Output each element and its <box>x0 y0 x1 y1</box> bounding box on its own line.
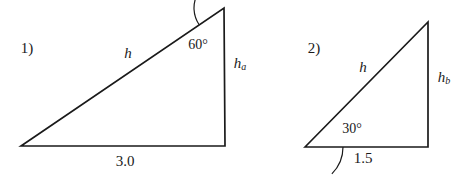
problem-2-vertical-side-label: hb <box>438 70 451 87</box>
problem-1-hypotenuse-label: h <box>124 46 132 61</box>
triangle-2-outline <box>305 22 428 147</box>
problem-2-vertical-side-symbol: h <box>438 69 446 85</box>
problem-2-base-length-label: 1.5 <box>354 151 373 166</box>
triangle-1-outline <box>21 8 225 146</box>
problem-1-vertical-side-label: ha <box>234 56 247 73</box>
triangle-1 <box>21 0 225 146</box>
triangle-2-angle-arc <box>332 147 343 174</box>
geometry-figure-canvas: 1) h ha 3.0 60° 2) h hb 1.5 30° <box>0 0 463 176</box>
problem-1-hypotenuse-symbol: h <box>124 45 132 61</box>
triangles-svg <box>0 0 463 176</box>
problem-1-vertical-side-symbol: h <box>234 55 242 71</box>
triangle-1-angle-arc <box>194 0 224 25</box>
problem-1-index-label: 1) <box>21 41 34 56</box>
problem-2-hypotenuse-label: h <box>359 60 367 75</box>
problem-1-angle-label: 60° <box>188 38 208 52</box>
problem-2-angle-label: 30° <box>342 122 362 136</box>
problem-2-hypotenuse-symbol: h <box>359 59 367 75</box>
problem-1-vertical-side-subscript: a <box>241 61 246 72</box>
problem-1-base-length-label: 3.0 <box>116 154 135 169</box>
problem-2-vertical-side-subscript: b <box>445 75 450 86</box>
problem-2-index-label: 2) <box>308 41 321 56</box>
